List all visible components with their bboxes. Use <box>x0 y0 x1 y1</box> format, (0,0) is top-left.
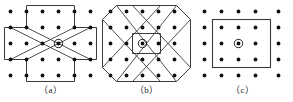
panel-a-lattice-points <box>9 10 93 78</box>
panel-c: （c） <box>194 0 291 102</box>
panel-b-canvas <box>98 1 195 85</box>
panel-c-caption: （c） <box>194 84 291 96</box>
panel-c-circled-center-point <box>234 39 242 47</box>
panel-b: （b） <box>98 0 195 102</box>
panel-a-diagonals <box>11 28 91 60</box>
panel-a-canvas <box>2 1 99 85</box>
panel-a: （a） <box>2 0 99 102</box>
panel-b-circled-center-point <box>138 39 146 47</box>
lattice-unit-cell-figure: （a） <box>0 0 293 102</box>
panel-a-cell-outline <box>5 6 97 82</box>
panel-b-caption: （b） <box>98 84 195 96</box>
panel-a-caption: （a） <box>2 84 99 96</box>
panel-c-canvas <box>194 1 291 85</box>
panel-a-circled-center-point <box>54 39 62 47</box>
